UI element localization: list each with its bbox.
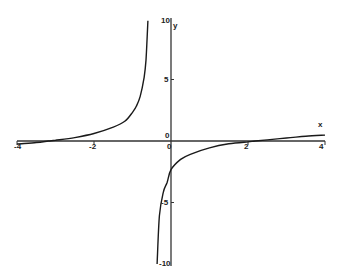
y-tick-label-10: 10 xyxy=(161,17,170,25)
x-tick-label-neg2: -2 xyxy=(89,143,96,151)
y-tick-label-neg5: -5 xyxy=(161,199,168,207)
function-plot xyxy=(0,0,342,273)
x-tick-label-2: 2 xyxy=(244,143,248,151)
y-axis-label: y xyxy=(173,22,177,30)
y-tick-label-neg10: -10 xyxy=(159,260,171,268)
x-tick-label-0: 0 xyxy=(167,143,171,151)
y-tick-label-5: 5 xyxy=(164,76,168,84)
x-axis-label: x xyxy=(318,121,322,129)
curve-right-branch xyxy=(157,135,325,264)
x-tick-label-4: 4 xyxy=(319,143,323,151)
origin-label: 0 xyxy=(165,132,169,140)
curve-left-branch xyxy=(17,21,148,144)
x-tick-label-neg4: -4 xyxy=(14,143,21,151)
